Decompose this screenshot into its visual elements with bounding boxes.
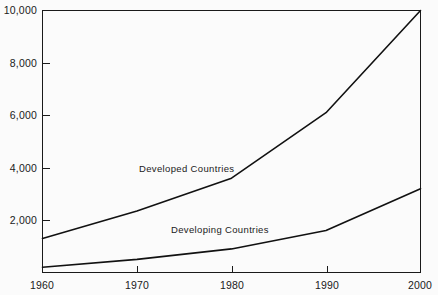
x-tick-label-1970: 1970	[125, 279, 149, 291]
x-tick-label-1990: 1990	[315, 279, 339, 291]
line-chart: 10,000 8,000 6,000 4,000 2,000 1960 1970…	[0, 0, 438, 295]
y-tick-label-6000: 6,000	[10, 109, 37, 121]
chart-canvas: 10,000 8,000 6,000 4,000 2,000 1960 1970…	[0, 0, 438, 295]
y-tick-label-4000: 4,000	[10, 162, 37, 174]
series-label-developing-countries: Developing Countries	[171, 224, 269, 235]
y-tick-label-8000: 8,000	[10, 57, 37, 69]
x-tick-label-1960: 1960	[30, 279, 54, 291]
y-tick-label-10000: 10,000	[4, 4, 37, 16]
series-label-developed-countries: Developed Countries	[139, 163, 234, 174]
x-tick-label-1980: 1980	[220, 279, 244, 291]
x-tick-label-2000: 2000	[408, 279, 432, 291]
y-tick-label-2000: 2,000	[10, 214, 37, 226]
